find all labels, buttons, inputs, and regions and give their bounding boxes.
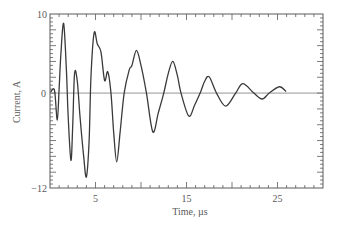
chart: 10 0 −12 5 15 25 Time, µs Current, A — [0, 0, 341, 228]
y-axis-title: Current, A — [11, 80, 22, 123]
current-trace — [51, 23, 286, 177]
y-tick-label-10: 10 — [37, 9, 47, 20]
x-tick-label-25: 25 — [273, 193, 283, 204]
x-tick-label-15: 15 — [182, 193, 192, 204]
y-tick-label-0: 0 — [41, 88, 46, 99]
y-tick-label-neg12: −12 — [31, 183, 47, 194]
x-tick-label-5: 5 — [93, 193, 98, 204]
x-axis-title: Time, µs — [172, 206, 208, 217]
axis-ticks — [50, 14, 323, 188]
plot-frame — [50, 14, 323, 188]
plot-area — [50, 14, 323, 188]
